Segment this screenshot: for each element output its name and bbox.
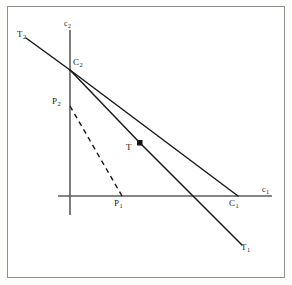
point-marker-t bbox=[137, 140, 143, 146]
line-t1 bbox=[70, 70, 242, 245]
label-t-point-main: T bbox=[126, 142, 132, 152]
label-t2-sub: 2 bbox=[23, 33, 26, 40]
label-p1: P1 bbox=[114, 199, 122, 208]
label-p2-sub: 2 bbox=[57, 100, 60, 107]
label-t2: T2 bbox=[17, 30, 26, 39]
label-c1: C1 bbox=[229, 199, 238, 208]
label-t1: T1 bbox=[241, 243, 250, 252]
axis-label-c1-sub: 1 bbox=[266, 189, 269, 195]
axis-label-c2: c2 bbox=[64, 20, 71, 28]
label-t-point: T bbox=[126, 143, 132, 152]
label-p1-sub: 1 bbox=[119, 202, 122, 209]
label-p2: P2 bbox=[52, 97, 60, 106]
figure-container: c2 c1 T2 C2 P2 T P1 C1 T1 bbox=[0, 0, 292, 285]
axis-label-c2-sub: 2 bbox=[68, 23, 71, 29]
label-c2-sub: 2 bbox=[79, 61, 82, 68]
line-p2-p1-dashed bbox=[70, 106, 122, 196]
label-t2-main: T bbox=[17, 29, 23, 39]
label-t1-main: T bbox=[241, 242, 247, 252]
axis-label-c1: c1 bbox=[262, 186, 269, 194]
label-c1-sub: 1 bbox=[235, 202, 238, 209]
line-t2 bbox=[26, 38, 238, 196]
label-c2: C2 bbox=[73, 58, 82, 67]
label-t1-sub: 1 bbox=[247, 246, 250, 253]
